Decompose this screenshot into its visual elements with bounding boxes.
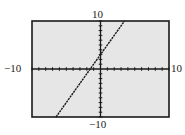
x-max-label: 10 — [171, 63, 182, 74]
x-min-label: −10 — [4, 63, 21, 74]
graph-screen — [0, 0, 185, 135]
y-min-label: −10 — [89, 119, 106, 130]
y-max-label: 10 — [92, 9, 103, 20]
